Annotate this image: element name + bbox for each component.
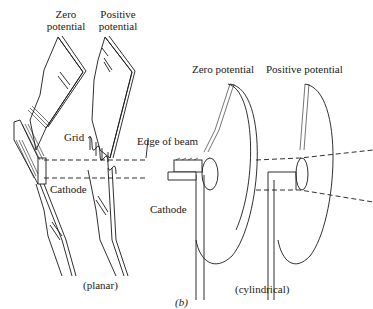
cylindrical-cathode-label: Cathode — [150, 203, 187, 215]
panel-label: (b) — [175, 296, 188, 308]
planar-zero-potential-label: Zero potential — [36, 8, 96, 32]
cylindrical-zero-disk — [168, 84, 257, 300]
planar-positive-plate-upper — [92, 36, 135, 158]
cylindrical-positive-potential-label: Positive potential — [266, 63, 343, 75]
planar-positive-potential-label: Positive potential — [88, 8, 148, 32]
cylindrical-caption: (cylindrical) — [235, 283, 289, 295]
cylindrical-positive-disk — [268, 84, 333, 300]
diagram-drawing — [0, 0, 373, 309]
grid-label: Grid — [64, 131, 84, 143]
planar-caption: (planar) — [83, 279, 118, 291]
planar-positive-plate-lower — [88, 168, 128, 276]
beam-edges — [44, 140, 373, 202]
cylindrical-zero-potential-label: Zero potential — [192, 63, 254, 75]
planar-zero-plate-lower — [36, 184, 76, 276]
planar-cathode-label: Cathode — [50, 183, 87, 195]
edge-of-beam-label: Edge of beam — [137, 135, 198, 147]
